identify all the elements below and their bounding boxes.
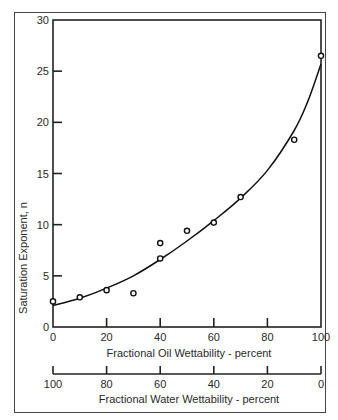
x2-tick-label: 60	[154, 378, 166, 390]
data-point	[131, 291, 136, 296]
x2-tick-label: 20	[261, 378, 273, 390]
y-tick-label: 25	[37, 65, 49, 77]
y-axis-ticks	[53, 71, 62, 276]
x2-tick-label: 0	[318, 378, 324, 390]
y-axis-label: Saturation Exponent, n	[17, 202, 29, 314]
data-point	[158, 256, 163, 261]
x2-axis-tick-labels: 100806040200	[44, 378, 324, 390]
x2-axis-label: Fractional Water Wettability - percent	[99, 393, 279, 405]
x-axis-tick-labels: 020406080100	[50, 331, 330, 343]
data-point	[158, 240, 163, 245]
chart-figure: 051015202530 020406080100 100806040200 F…	[0, 0, 338, 420]
x-tick-label: 80	[261, 331, 273, 343]
x-tick-label: 40	[154, 331, 166, 343]
x2-axis-ticks	[53, 366, 321, 374]
plot-frame	[53, 20, 321, 327]
y-axis-tick-labels: 051015202530	[37, 14, 49, 333]
x-tick-label: 60	[208, 331, 220, 343]
data-point	[318, 53, 323, 58]
y-tick-label: 10	[37, 219, 49, 231]
data-point	[292, 137, 297, 142]
x2-tick-label: 80	[100, 378, 112, 390]
y-tick-label: 15	[37, 168, 49, 180]
x-tick-label: 100	[312, 331, 330, 343]
data-point	[77, 295, 82, 300]
x-axis-ticks	[107, 318, 268, 327]
y-tick-label: 20	[37, 116, 49, 128]
y-tick-label: 30	[37, 14, 49, 26]
x-axis-label: Fractional Oil Wettability - percent	[107, 347, 272, 359]
x2-tick-label: 40	[208, 378, 220, 390]
data-point	[211, 220, 216, 225]
y-tick-label: 5	[43, 270, 49, 282]
data-points	[50, 53, 323, 304]
data-point	[104, 288, 109, 293]
data-point	[238, 194, 243, 199]
x-tick-label: 20	[100, 331, 112, 343]
x-tick-label: 0	[50, 331, 56, 343]
x2-tick-label: 100	[44, 378, 62, 390]
data-point	[184, 228, 189, 233]
y-tick-label: 0	[43, 321, 49, 333]
fitted-curve	[53, 64, 321, 306]
data-point	[50, 299, 55, 304]
